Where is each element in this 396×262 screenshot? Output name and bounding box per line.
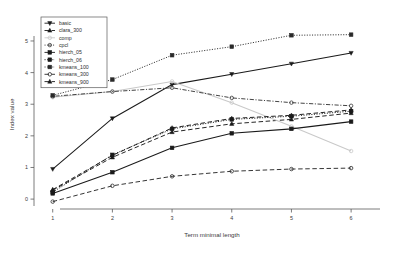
legend-label: clara_300 [59, 27, 82, 33]
data-point-marker [230, 45, 234, 49]
y-tick-label: 3 [25, 101, 28, 107]
data-point-marker [51, 94, 55, 98]
y-tick-label: 4 [25, 70, 28, 76]
legend-label: kmeans_300 [59, 71, 89, 77]
x-axis-title: Term minimal length [184, 231, 240, 238]
data-point-marker [170, 146, 174, 150]
data-point-marker [290, 33, 294, 37]
data-point-marker [48, 65, 52, 69]
x-tick-label: 3 [171, 215, 174, 221]
y-axis-title: Index value [8, 98, 15, 130]
y-tick-label: 5 [25, 38, 28, 44]
series-kmeans_900 [51, 108, 354, 192]
series-line-cpcl [53, 88, 351, 106]
x-tick-label: 5 [290, 215, 293, 221]
legend-label: kmeans_100 [59, 64, 89, 70]
legend-label: hierch_06 [59, 57, 82, 63]
legend-label: basic [59, 20, 72, 26]
y-tick-label: 2 [25, 133, 28, 139]
x-tick-label: 6 [350, 215, 353, 221]
series-line-clara_300 [53, 113, 351, 190]
data-point-marker [230, 132, 234, 136]
series-cpcl [51, 86, 353, 108]
x-tick-label: 1 [51, 215, 54, 221]
legend-label: kmeans_900 [59, 79, 89, 85]
data-point-marker [48, 58, 52, 62]
data-point-marker [349, 120, 353, 124]
series-comp [51, 80, 353, 153]
data-point-marker [111, 170, 115, 174]
legend-label: hierch_05 [59, 49, 82, 55]
legend-label: comp [59, 35, 72, 41]
legend-label: cpcl [59, 42, 68, 48]
series-line-kmeans_300 [53, 168, 351, 202]
series-hierch_05 [51, 120, 353, 195]
series-kmeans_300 [51, 166, 353, 203]
x-tick-label: 4 [230, 215, 233, 221]
data-point-marker [349, 33, 353, 37]
series-hierch_06 [51, 109, 353, 194]
y-tick-label: 1 [25, 164, 28, 170]
data-point-marker [170, 53, 174, 57]
data-point-marker [111, 78, 115, 82]
legend-panel: basicclara_300compcpclhierch_05hierch_06… [41, 17, 107, 88]
data-point-marker [349, 104, 353, 108]
chart-container: 123456012345Term minimal lengthIndex val… [0, 0, 396, 262]
data-point-marker [51, 167, 55, 171]
x-tick-label: 2 [111, 215, 114, 221]
data-point-marker [48, 51, 52, 55]
y-tick-label: 0 [25, 196, 28, 202]
line-chart: 123456012345Term minimal lengthIndex val… [0, 0, 396, 262]
data-point-marker [290, 127, 294, 131]
